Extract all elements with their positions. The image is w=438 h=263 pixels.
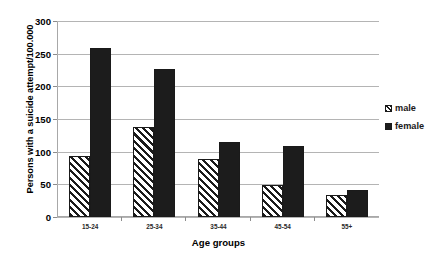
y-axis-tick-mark: [53, 217, 57, 218]
bar-groups: [58, 21, 379, 217]
bar-male-45-54[interactable]: [262, 185, 283, 217]
bar-female-45-54[interactable]: [283, 146, 304, 217]
y-axis-tick-label: 150: [35, 114, 51, 125]
x-axis-tick-label: 15-24: [58, 223, 122, 230]
x-axis-tick-mark: [250, 217, 251, 221]
y-axis-tick-label: 200: [35, 81, 51, 92]
legend-item-female[interactable]: female: [385, 121, 438, 131]
legend-swatch-male: [385, 105, 392, 112]
y-axis-tick-mark: [53, 54, 57, 55]
y-axis-title: Persons with a suicide attempt/100.000: [25, 9, 35, 209]
bar-group: [186, 21, 250, 217]
bar-female-35-44[interactable]: [219, 142, 240, 217]
x-axis-tick-mark: [185, 217, 186, 221]
x-axis-tick-labels: 15-2425-3435-4445-5455+: [58, 223, 379, 230]
bar-female-15-24[interactable]: [90, 48, 111, 217]
y-axis-tick-label: 100: [35, 146, 51, 157]
x-axis-tick-label: 35-44: [186, 223, 250, 230]
gridline: [57, 217, 379, 218]
y-axis-tick-mark: [53, 119, 57, 120]
y-axis-tick-mark: [53, 184, 57, 185]
y-axis-tick-mark: [53, 152, 57, 153]
x-axis-title: Age groups: [58, 237, 379, 248]
legend-swatch-female: [385, 123, 392, 130]
legend-label: female: [395, 121, 424, 131]
y-axis-tick-label: 0: [46, 212, 51, 223]
y-axis-tick-mark: [53, 21, 57, 22]
plot-area: 300250200150100500: [57, 21, 379, 217]
bar-male-35-44[interactable]: [198, 159, 219, 217]
x-axis-tick-mark: [314, 217, 315, 221]
bar-group: [122, 21, 186, 217]
legend-item-male[interactable]: male: [385, 103, 438, 113]
y-axis-tick-label: 250: [35, 48, 51, 59]
y-axis-tick-label: 50: [40, 179, 51, 190]
bar-female-25-34[interactable]: [154, 69, 175, 217]
x-axis-tick-label: 25-34: [122, 223, 186, 230]
bar-group: [58, 21, 122, 217]
legend-label: male: [395, 103, 416, 113]
bar-group: [251, 21, 315, 217]
chart-legend: malefemale: [385, 103, 438, 139]
bar-male-55+[interactable]: [326, 195, 347, 217]
bar-group: [315, 21, 379, 217]
bar-male-25-34[interactable]: [133, 127, 154, 217]
x-axis-tick-label: 55+: [315, 223, 379, 230]
bar-female-55+[interactable]: [347, 190, 368, 217]
x-axis-tick-label: 45-54: [251, 223, 315, 230]
bar-male-15-24[interactable]: [69, 156, 90, 217]
y-axis-tick-mark: [53, 86, 57, 87]
x-axis-tick-mark: [121, 217, 122, 221]
y-axis-tick-label: 300: [35, 16, 51, 27]
bar-chart: Persons with a suicide attempt/100.000 3…: [0, 0, 438, 263]
